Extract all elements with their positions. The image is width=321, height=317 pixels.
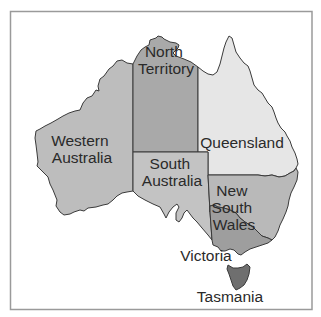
label-tasmania: Tasmania	[197, 288, 264, 305]
label-western-australia: Western Australia	[51, 132, 113, 166]
label-new-south-wales: New South Wales	[212, 182, 257, 233]
label-queensland: Queensland	[200, 134, 284, 151]
australia-map: North Territory Western Australia Queens…	[0, 0, 321, 317]
label-victoria: Victoria	[180, 247, 232, 264]
label-northern-territory: North Territory	[138, 43, 194, 77]
label-south-australia: South Australia	[142, 155, 203, 189]
